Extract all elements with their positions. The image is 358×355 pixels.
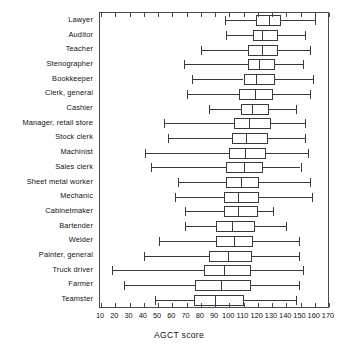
box-iqr — [234, 118, 271, 129]
whisker-high-cap — [296, 105, 297, 114]
x-axis-title: AGCT score — [0, 330, 358, 340]
whisker-low-cap — [145, 149, 146, 158]
box-iqr — [253, 30, 277, 41]
x-tick-label: 150 — [293, 311, 305, 320]
boxplot-row — [100, 73, 328, 87]
whisker-high-cap — [286, 222, 287, 231]
box-iqr — [248, 59, 275, 70]
median-line — [255, 89, 256, 100]
box-iqr — [241, 104, 270, 115]
whisker-high-cap — [303, 60, 304, 69]
median-line — [252, 104, 253, 115]
whisker-high-line — [271, 123, 305, 124]
boxplot-row — [100, 250, 328, 264]
category-label: Truck driver — [52, 266, 93, 274]
median-line — [259, 59, 260, 70]
whisker-high-cap — [305, 31, 306, 40]
box-iqr — [209, 251, 252, 262]
whisker-high-line — [253, 241, 299, 242]
x-tick-label: 130 — [265, 311, 277, 320]
boxplot-row — [100, 103, 328, 117]
whisker-low-cap — [178, 178, 179, 187]
median-line — [246, 133, 247, 144]
median-line — [256, 74, 257, 85]
whisker-low-line — [155, 300, 193, 301]
whisker-low-line — [201, 50, 248, 51]
category-label-column: LawyerAuditorTeacherStenographerBookkeep… — [0, 0, 97, 300]
median-line — [249, 118, 250, 129]
box-iqr — [239, 89, 273, 100]
whisker-high-cap — [313, 75, 314, 84]
box-iqr — [195, 280, 251, 291]
boxplot-row — [100, 132, 328, 146]
whisker-low-cap — [187, 90, 188, 99]
box-iqr — [224, 192, 260, 203]
x-tick-label: 10 — [96, 311, 104, 320]
x-tick-label: 100 — [222, 311, 234, 320]
whisker-high-line — [273, 94, 310, 95]
whisker-high-cap — [305, 134, 306, 143]
boxplot-row — [100, 191, 328, 205]
whisker-low-line — [178, 182, 226, 183]
whisker-low-line — [225, 20, 256, 21]
category-label: Lawyer — [68, 16, 93, 24]
whisker-low-cap — [226, 31, 227, 40]
whisker-low-line — [112, 270, 203, 271]
whisker-low-cap — [124, 281, 125, 290]
whisker-high-cap — [299, 252, 300, 261]
whisker-low-line — [184, 64, 248, 65]
whisker-low-line — [226, 35, 253, 36]
x-tick-top — [329, 13, 330, 17]
box-iqr — [226, 162, 263, 173]
whisker-low-line — [168, 138, 232, 139]
whisker-high-cap — [303, 266, 304, 275]
x-tick-label: 30 — [124, 311, 132, 320]
whisker-high-cap — [299, 281, 300, 290]
whisker-high-line — [259, 197, 312, 198]
whisker-low-line — [164, 123, 234, 124]
box-iqr — [204, 265, 251, 276]
x-tick-bottom — [329, 303, 330, 307]
median-line — [241, 177, 242, 188]
median-line — [238, 206, 239, 217]
category-label: Auditor — [69, 31, 93, 39]
category-label: Mechanic — [60, 192, 93, 200]
category-label: Cabinetmaker — [45, 207, 93, 215]
whisker-high-cap — [312, 193, 313, 202]
x-tick-label: 50 — [153, 311, 161, 320]
whisker-low-cap — [155, 296, 156, 305]
median-line — [245, 148, 246, 159]
box-iqr — [194, 295, 244, 306]
boxplot-row — [100, 58, 328, 72]
boxplot-row — [100, 147, 328, 161]
x-tick-label: 70 — [181, 311, 189, 320]
median-line — [244, 162, 245, 173]
box-iqr — [229, 148, 266, 159]
boxplot-row — [100, 294, 328, 308]
category-label: Sales clerk — [55, 163, 93, 171]
category-label: Teacher — [66, 45, 93, 53]
whisker-low-cap — [201, 46, 202, 55]
whisker-low-line — [144, 256, 210, 257]
category-label: Clerk, general — [45, 89, 93, 97]
whisker-high-cap — [315, 16, 316, 25]
category-label: Teamster — [61, 295, 93, 303]
boxplot-row — [100, 161, 328, 175]
whisker-low-cap — [164, 119, 165, 128]
whisker-low-line — [185, 226, 216, 227]
whisker-low-line — [209, 109, 240, 110]
category-label: Bookkeeper — [52, 75, 93, 83]
boxplot-row — [100, 88, 328, 102]
median-line — [262, 30, 263, 41]
box-iqr — [244, 74, 275, 85]
category-label: Painter, general — [39, 251, 93, 259]
median-line — [234, 236, 235, 247]
whisker-low-cap — [185, 222, 186, 231]
median-line — [224, 265, 225, 276]
whisker-low-cap — [112, 266, 113, 275]
category-label: Machinist — [60, 148, 93, 156]
boxplot-row — [100, 176, 328, 190]
median-line — [262, 45, 263, 56]
x-tick-label: 20 — [110, 311, 118, 320]
boxplot-row — [100, 44, 328, 58]
